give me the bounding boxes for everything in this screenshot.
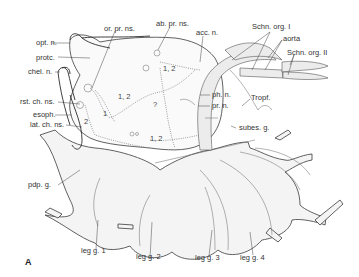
region-number: 2 [84,118,88,126]
label-aorta: aorta [283,35,300,43]
region-number: 1, 2 [118,93,131,101]
anatomical-diagram: opt. n. protc. chel. n. or. pr. ns. ab. … [0,0,359,277]
label-pedipalp-ganglion: pdp. g. [28,181,51,189]
label-tropf: Tropf. [251,94,270,102]
leg-stub-right [315,200,343,225]
label-leg-ganglion-1: leg g. 1 [81,247,106,255]
label-subesophageal-ganglion: subes. g. [239,124,269,132]
schneider-organ-2 [240,68,283,78]
region-number: 1, 2 [163,65,176,73]
label-pr-nerve: pr. n. [212,102,229,110]
leg-stub-top [275,130,291,140]
panel-letter: A [25,258,32,267]
label-cheliceral-nerve: chel. n. [28,68,52,76]
region-number: 1, 2 [150,135,163,143]
label-protocerebrum: protc. [36,54,55,62]
leg-stub-mid [118,224,133,229]
label-or-pr-ns: or. pr. ns. [104,25,135,33]
schneider-tip [282,61,328,72]
label-ab-pr-ns: ab. pr. ns. [156,20,189,28]
region-number: 1 [103,110,107,118]
label-schneider-organ-1: Schn. org. I [252,23,290,31]
label-leg-ganglion-4: leg g. 4 [240,254,265,262]
label-leg-ganglion-3: leg g. 3 [195,254,220,262]
label-schneider-organ-2: Schn. org. II [287,49,327,57]
region-number: ? [153,101,157,109]
label-rst-ch-ns: rst. ch. ns. [20,98,55,106]
label-optic-nerve: opt. n. [36,39,57,47]
label-accessory-nerve: acc. n. [196,29,218,37]
label-lat-ch-ns: lat. ch. ns. [30,121,64,129]
label-esophagus: esoph. [33,111,56,119]
label-pharyngeal-nerve: ph. n. [212,91,231,99]
label-leg-ganglion-2: leg g. 2 [136,253,161,261]
